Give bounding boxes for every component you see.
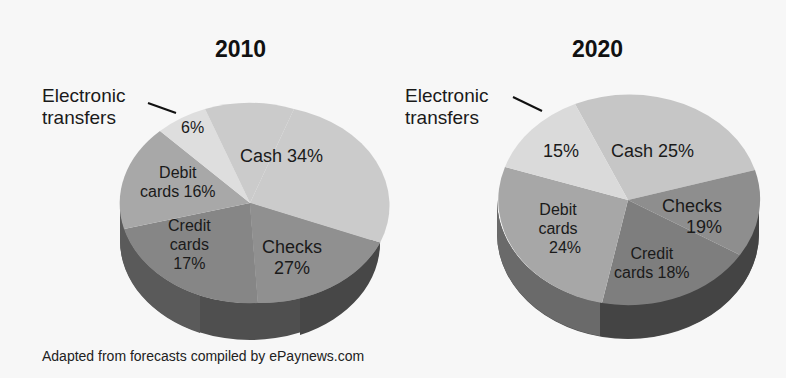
callout-line2: transfers <box>405 107 488 129</box>
label-line: 19% <box>662 217 722 238</box>
chart-title-2020: 2020 <box>572 36 623 63</box>
label-credit-2010: Credit cards 17% <box>168 216 211 273</box>
callout-line1: Electronic <box>405 85 488 107</box>
callout-line-2020 <box>513 97 542 111</box>
label-checks-2010: Checks 27% <box>262 237 322 279</box>
chart-title-2010: 2010 <box>215 36 266 63</box>
label-line: Debit <box>535 200 581 219</box>
figure: 2010 2020 Electronic transfers 6% Cash 3… <box>0 0 786 378</box>
pie-2020 <box>0 0 786 378</box>
label-line: 24% <box>535 238 581 257</box>
label-cash-2020: Cash 25% <box>611 141 694 162</box>
label-debit-2010: Debit cards 16% <box>140 163 216 201</box>
label-line: cards <box>168 235 211 254</box>
label-line: cards <box>535 219 581 238</box>
label-debit-2020: Debit cards 24% <box>535 200 581 257</box>
label-line: Checks <box>662 196 722 217</box>
label-checks-2020: Checks 19% <box>662 196 722 238</box>
callout-electronic-2010: Electronic transfers <box>42 85 125 129</box>
label-cash-2010: Cash 34% <box>240 146 323 167</box>
label-credit-2020: Credit cards 18% <box>614 244 690 282</box>
label-electronic-2010: 6% <box>181 118 204 137</box>
callout-line1: Electronic <box>42 85 125 107</box>
callout-line2: transfers <box>42 107 125 129</box>
source-note: Adapted from forecasts compiled by ePayn… <box>42 348 364 364</box>
label-line: 17% <box>168 254 211 273</box>
label-line: cards 16% <box>140 182 216 201</box>
callout-electronic-2020: Electronic transfers <box>405 85 488 129</box>
label-line: Checks <box>262 237 322 258</box>
label-line: Debit <box>140 163 216 182</box>
label-line: Credit <box>614 244 690 263</box>
label-electronic-2020: 15% <box>543 141 579 162</box>
label-line: Credit <box>168 216 211 235</box>
label-line: 27% <box>262 258 322 279</box>
label-line: cards 18% <box>614 263 690 282</box>
